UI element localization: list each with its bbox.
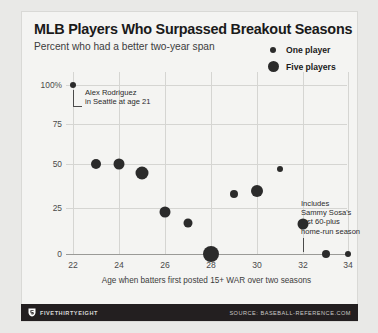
gridline-x-30	[257, 72, 258, 254]
gridline-y-50	[66, 164, 347, 165]
data-point	[184, 219, 193, 228]
chart-page: MLB Players Who Surpassed Breakout Seaso…	[0, 0, 378, 333]
annotation-right-leader	[303, 238, 304, 252]
annotation-alex-rodriguez: Alex Rodriguez in Seattle at age 21	[85, 88, 150, 106]
data-point	[160, 207, 171, 218]
footer-brand: FIVETHIRTYEIGHT	[28, 308, 98, 317]
data-point	[136, 167, 149, 180]
annotation-sammy-sosa: Includes Sammy Sosa's last 60-plus home-…	[301, 199, 360, 236]
data-point	[70, 82, 76, 88]
data-point	[91, 159, 101, 169]
gridline-y-100	[66, 85, 347, 86]
ytick-label-100: 100%	[22, 80, 62, 90]
xtick-label-24: 24	[114, 260, 124, 270]
annotation-left-leader-vertical	[73, 90, 74, 107]
xtick-label-34: 34	[343, 260, 353, 270]
ytick-label-50: 50	[22, 159, 62, 169]
gridline-x-28	[211, 72, 212, 254]
xtick-label-32: 32	[298, 260, 308, 270]
footer-brand-label: FIVETHIRTYEIGHT	[40, 310, 98, 316]
footer-source-label: SOURCE: BASEBALL-REFERENCE.COM	[229, 310, 351, 316]
data-point	[251, 185, 263, 197]
data-point	[114, 159, 125, 170]
annotation-left-leader-horizontal	[73, 106, 82, 107]
fivethirtyeight-logo-icon	[28, 308, 36, 317]
data-point	[277, 166, 283, 172]
gridline-y-75	[66, 124, 347, 125]
ytick-label-25: 25	[22, 203, 62, 213]
xtick-label-22: 22	[68, 260, 78, 270]
xtick-label-26: 26	[160, 260, 170, 270]
xtick-label-30: 30	[252, 260, 262, 270]
gridline-x-26	[165, 72, 166, 254]
chart-footer: FIVETHIRTYEIGHT SOURCE: BASEBALL-REFEREN…	[21, 304, 358, 321]
data-point	[345, 251, 351, 257]
xtick-label-28: 28	[206, 260, 216, 270]
plot-area: 100% 75 50 25 0	[22, 12, 359, 323]
ytick-label-75: 75	[22, 119, 62, 129]
ytick-label-0: 0	[22, 249, 62, 259]
data-point	[322, 250, 330, 258]
chart-card: MLB Players Who Surpassed Breakout Seaso…	[21, 11, 358, 322]
x-axis-label: Age when batters first posted 15+ WAR ov…	[66, 276, 347, 285]
data-point	[230, 190, 238, 198]
